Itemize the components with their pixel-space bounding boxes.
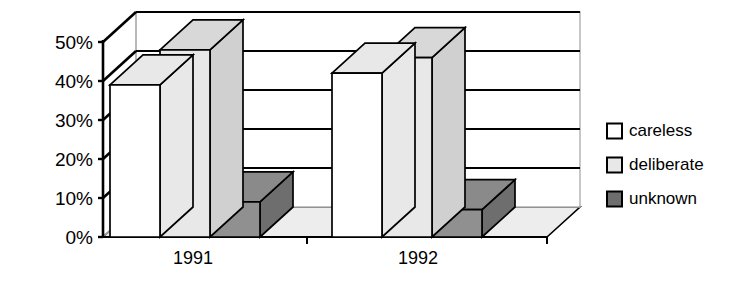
legend-swatch bbox=[607, 192, 622, 207]
bar-side-face bbox=[432, 28, 465, 237]
y-axis-tick-label: 10% bbox=[55, 188, 93, 209]
bar-front-face bbox=[110, 85, 160, 237]
legend-swatch bbox=[607, 124, 622, 139]
depth-connector bbox=[103, 12, 136, 42]
y-axis-tick-label: 30% bbox=[55, 110, 93, 131]
x-axis-tick-label: 1991 bbox=[173, 248, 213, 268]
y-axis-tick-label: 20% bbox=[55, 149, 93, 170]
legend-label: careless bbox=[629, 121, 692, 140]
y-axis-labels: 50%40%30%20%10%0% bbox=[55, 32, 93, 248]
bar-chart-3d: 50%40%30%20%10%0% 19911992 carelessdelib… bbox=[0, 0, 733, 284]
bar-careless-1991 bbox=[110, 55, 193, 237]
bar-side-face bbox=[382, 43, 415, 237]
bar-front-face bbox=[332, 73, 382, 237]
legend-swatch bbox=[607, 158, 622, 173]
bar-careless-1992 bbox=[332, 43, 415, 237]
bar-side-face bbox=[160, 55, 193, 237]
legend-label: deliberate bbox=[629, 155, 704, 174]
x-axis-labels: 19911992 bbox=[173, 237, 547, 268]
legend-item-deliberate: deliberate bbox=[607, 155, 704, 174]
x-axis-tick-label: 1992 bbox=[398, 248, 438, 268]
legend-item-careless: careless bbox=[607, 121, 692, 140]
y-axis-tick-label: 40% bbox=[55, 71, 93, 92]
y-axis-tick-label: 0% bbox=[66, 227, 94, 248]
legend: carelessdeliberateunknown bbox=[607, 121, 704, 208]
bar-side-face bbox=[210, 20, 243, 237]
legend-item-unknown: unknown bbox=[607, 189, 697, 208]
chart-container: 50%40%30%20%10%0% 19911992 carelessdelib… bbox=[0, 0, 733, 284]
legend-label: unknown bbox=[629, 189, 697, 208]
y-axis-tick-label: 50% bbox=[55, 32, 93, 53]
